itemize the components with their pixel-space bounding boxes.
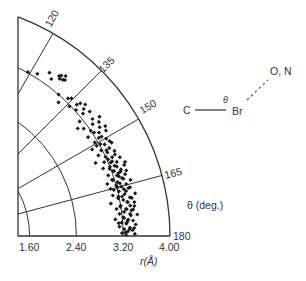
theta-axis-label: θ (deg.) [187, 200, 223, 211]
r-tick-label-3: 3.20 [113, 242, 133, 253]
data-point [133, 191, 137, 195]
data-point [132, 200, 136, 204]
data-point [76, 126, 80, 130]
data-point [112, 149, 116, 153]
theta-tick-label-180: 180 [173, 231, 191, 242]
data-point [124, 207, 128, 211]
data-point [77, 119, 81, 123]
data-point [91, 122, 95, 126]
data-point [67, 104, 71, 108]
data-point [128, 203, 132, 207]
data-point [96, 153, 100, 157]
data-point [102, 160, 106, 164]
data-point [82, 127, 86, 131]
data-point [63, 74, 67, 78]
data-point [90, 147, 94, 151]
r-tick-label-2: 2.40 [66, 242, 86, 253]
polar-grid [18, 33, 162, 236]
r-tick-label-4: 4.00 [159, 242, 179, 253]
r-axis-label: r(Å) [140, 256, 158, 267]
atom-label-c: C [183, 105, 191, 116]
data-point [83, 102, 87, 106]
atom-label-o-n: O, N [270, 66, 292, 77]
theta-grid-line [18, 33, 53, 94]
data-point [122, 163, 126, 167]
data-point [123, 172, 127, 176]
data-point [98, 142, 102, 146]
data-point [106, 173, 110, 177]
r-grid-arc [18, 17, 170, 236]
br-on-contact-dashed-line [247, 80, 268, 100]
data-point [135, 212, 139, 216]
data-point [113, 217, 117, 221]
data-point [103, 124, 107, 128]
data-point [93, 161, 97, 165]
data-point [117, 225, 121, 229]
data-point [97, 120, 101, 124]
plot-frame [18, 17, 170, 236]
data-point [101, 166, 105, 170]
data-point [131, 218, 135, 222]
data-point [74, 108, 78, 112]
data-point [97, 130, 101, 134]
angle-label-theta: θ [223, 96, 228, 105]
axes-frame [18, 17, 170, 236]
r-grid-arc [18, 122, 76, 236]
polar-scatter-plot [0, 0, 306, 281]
data-point [111, 193, 115, 197]
data-point [128, 178, 132, 182]
data-point [117, 221, 121, 225]
data-point [97, 115, 101, 119]
data-point [82, 107, 86, 111]
r-tick-label-1: 1.60 [19, 242, 39, 253]
atom-label-br: Br [232, 106, 243, 117]
theta-grid-line [18, 175, 162, 214]
data-point [109, 201, 113, 205]
data-point [123, 160, 127, 164]
data-point [108, 187, 112, 191]
data-point [104, 128, 108, 132]
data-point [105, 182, 109, 186]
data-point [47, 71, 51, 75]
data-point [110, 155, 114, 159]
data-point [118, 155, 122, 159]
data-point [115, 160, 119, 164]
data-point [99, 148, 103, 152]
data-point [35, 72, 39, 76]
data-point [124, 168, 128, 172]
data-point [88, 109, 92, 113]
data-point [90, 117, 94, 121]
data-point [98, 125, 102, 129]
data-point [81, 111, 85, 115]
data-point [113, 152, 117, 156]
data-point [49, 77, 53, 81]
data-point [102, 142, 106, 146]
data-point [114, 207, 118, 211]
data-point [86, 135, 90, 139]
data-point [56, 100, 60, 104]
data-point [117, 212, 121, 216]
